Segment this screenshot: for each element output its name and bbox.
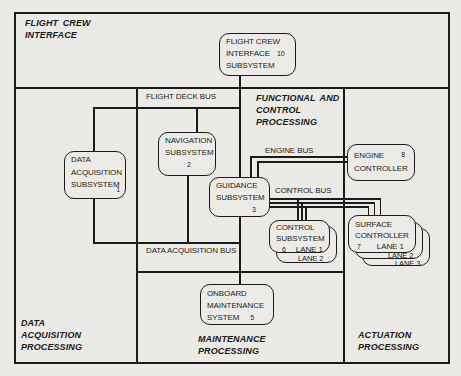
node-number: 6 bbox=[282, 246, 286, 253]
outer-border-top bbox=[14, 12, 450, 14]
control-subsystem-lane2-label: LANE 2 bbox=[298, 254, 323, 263]
outer-border-right bbox=[448, 12, 450, 364]
node-label: SUBSYSTEM bbox=[226, 60, 293, 72]
region-label-functional-and-control-processing: FUNCTIONAL AND CONTROL PROCESSING bbox=[256, 92, 339, 128]
node-label: SUBSYSTEM bbox=[276, 234, 327, 245]
engine-bus-drop-2 bbox=[257, 161, 259, 178]
control-bus-drop-to-surface-1 bbox=[380, 198, 382, 216]
flight-deck-bus-line bbox=[93, 107, 240, 109]
outer-border-bottom bbox=[14, 362, 450, 364]
control-bus-drop-to-control-1 bbox=[297, 198, 299, 221]
flight-deck-bus-label: FLIGHT DECK BUS bbox=[146, 92, 216, 101]
node-label: MAINTENANCE bbox=[207, 300, 271, 312]
region-label-data-acquisition-processing: DATA ACQUISITION PROCESSING bbox=[21, 317, 82, 353]
connector-fdb-to-navigation bbox=[196, 107, 198, 133]
surface-controller-lane3-label: LANE 3 bbox=[395, 259, 420, 268]
region-label-actuation-processing: ACTUATION PROCESSING bbox=[358, 329, 419, 353]
node-data-acquisition-subsystem: DATA ACQUISITION SUBSYSTEM 1 bbox=[64, 151, 126, 199]
node-number: 10 bbox=[277, 50, 285, 57]
node-label: CONTROLLER bbox=[355, 230, 413, 241]
maintenance-region-divider bbox=[136, 271, 345, 273]
node-label: CONTROL bbox=[276, 223, 327, 234]
node-number: 5 bbox=[250, 314, 254, 321]
node-label: ACQUISITION bbox=[71, 167, 123, 180]
node-surface-controller: SURFACE CONTROLLER 7LANE 1 bbox=[348, 215, 416, 253]
control-bus-drop-to-control-2 bbox=[301, 202, 303, 221]
node-number: 1 bbox=[116, 184, 120, 197]
control-bus-drop-to-surface-2 bbox=[374, 202, 376, 216]
node-flight-crew-interface-subsystem: FLIGHT CREW INTERFACE10 SUBSYSTEM bbox=[219, 33, 296, 76]
node-onboard-maintenance-system: ONBOARD MAINTENANCE SYSTEM5 bbox=[200, 284, 274, 325]
flight-crew-interface-region-divider bbox=[14, 87, 450, 89]
actuation-region-divider bbox=[343, 87, 345, 364]
node-label: SURFACE bbox=[355, 219, 413, 230]
node-label: INTERFACE10 bbox=[226, 48, 293, 60]
region-label-maintenance-processing: MAINTENANCE PROCESSING bbox=[198, 333, 266, 357]
connector-navigation-to-bus bbox=[187, 176, 189, 243]
data-acquisition-bus-label: DATA ACQUISITION BUS bbox=[146, 246, 236, 255]
connector-fdb-to-data-acquisition bbox=[93, 107, 95, 152]
control-bus-drop-to-control-3 bbox=[305, 206, 307, 221]
node-label: SUBSYSTEM bbox=[165, 147, 213, 159]
engine-bus-drop-1 bbox=[250, 156, 252, 178]
node-label: NAVIGATION bbox=[165, 135, 213, 147]
node-label: FLIGHT CREW bbox=[226, 36, 293, 48]
avionics-architecture-diagram: FLIGHT CREW INTERFACE10 SUBSYSTEM DATA A… bbox=[0, 0, 461, 376]
node-number: 7 bbox=[357, 243, 361, 250]
engine-bus-line-2 bbox=[257, 161, 348, 163]
node-engine-controller: ENGINE CONTROLLER 8 bbox=[347, 144, 415, 181]
node-label: SYSTEM5 bbox=[207, 312, 271, 324]
control-bus-label: CONTROL BUS bbox=[275, 186, 331, 195]
node-label: ONBOARD bbox=[207, 288, 271, 300]
control-bus-line-3 bbox=[269, 206, 369, 208]
node-label: SUBSYSTEM bbox=[71, 179, 123, 192]
data-acquisition-bus-line bbox=[93, 242, 240, 244]
connector-guidance-to-onboard-maintenance bbox=[239, 217, 241, 285]
region-label-flight-crew-interface: FLIGHT CREW INTERFACE bbox=[25, 17, 91, 41]
node-control-subsystem: CONTROL SUBSYSTEM 6LANE 1 bbox=[269, 220, 330, 253]
engine-bus-label: ENGINE BUS bbox=[265, 146, 313, 155]
control-bus-line-1 bbox=[269, 198, 381, 200]
node-number: 2 bbox=[187, 159, 213, 171]
node-number: 8 bbox=[401, 148, 405, 161]
node-number: 3 bbox=[252, 204, 267, 216]
connector-data-acquisition-to-bus bbox=[93, 198, 95, 243]
node-navigation-subsystem: NAVIGATION SUBSYSTEM 2 bbox=[158, 132, 216, 176]
engine-bus-line-1 bbox=[250, 156, 348, 158]
control-bus-line-2 bbox=[269, 202, 375, 204]
node-label: SUBSYSTEM bbox=[216, 192, 267, 204]
node-label: CONTROLLER bbox=[354, 162, 412, 175]
connector-fci-subsystem-to-guidance bbox=[239, 75, 241, 178]
node-guidance-subsystem: GUIDANCE SUBSYSTEM 3 bbox=[209, 177, 270, 217]
node-label: DATA bbox=[71, 154, 123, 167]
outer-border-left bbox=[14, 12, 16, 364]
node-label: GUIDANCE bbox=[216, 180, 267, 192]
lane-label: LANE 1 bbox=[296, 245, 323, 254]
data-acquisition-region-divider bbox=[136, 87, 138, 364]
